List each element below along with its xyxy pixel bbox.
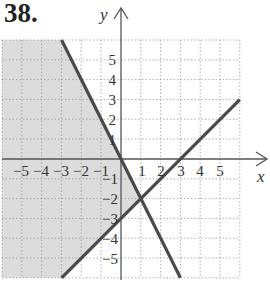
x-tick: 2 [157,163,165,179]
x-tick: 1 [138,163,146,179]
y-tick: −4 [102,231,118,247]
y-tick: 3 [109,92,117,108]
y-tick: 4 [109,72,117,88]
x-tick: 4 [196,163,204,179]
x-axis-label: x [256,167,265,186]
y-tick: −3 [102,211,118,227]
x-tick: 5 [216,163,224,179]
y-tick: 5 [109,52,117,68]
y-tick: 2 [109,112,117,128]
y-axis-label: y [98,5,108,24]
graph: y x −5 −4 −3 −2 −1 1 2 3 4 5 5 4 3 2 1 −… [0,0,270,283]
y-tick: 1 [109,132,117,148]
x-tick: −4 [33,163,49,179]
x-tick: −5 [13,163,29,179]
y-tick: −2 [102,191,118,207]
y-tick: −5 [102,251,118,267]
x-tick: 3 [177,163,185,179]
y-tick: −1 [102,171,118,187]
x-tick: −3 [53,163,69,179]
x-tick: −2 [73,163,89,179]
